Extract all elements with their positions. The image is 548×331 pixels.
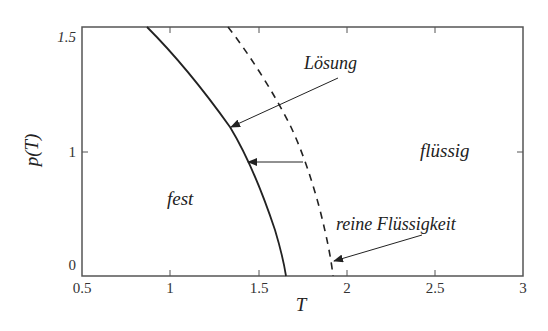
solution-curve <box>147 27 286 276</box>
y-tick-label: 1.5 <box>57 29 76 45</box>
region-fluessig-label: flüssig <box>420 140 470 161</box>
loesung-label: Lösung <box>303 53 357 73</box>
x-tick-label: 0.5 <box>73 280 92 296</box>
loesung-arrow <box>231 78 338 127</box>
x-axis-label: T <box>296 294 308 315</box>
phase-diagram-chart: 0.5 1 1.5 2 2.5 3 1.5 1 0 T p(T) Lösung … <box>0 0 548 331</box>
y-axis-label: p(T) <box>21 134 43 169</box>
x-ticks <box>170 27 435 276</box>
x-tick-label: 2 <box>343 280 351 296</box>
reine-fluessigkeit-label: reine Flüssigkeit <box>336 214 457 234</box>
x-tick-label: 2.5 <box>426 280 445 296</box>
x-tick-label: 3 <box>519 280 527 296</box>
x-tick-label: 1 <box>166 280 174 296</box>
y-tick-label: 0 <box>69 257 77 273</box>
region-fest-label: fest <box>167 188 194 209</box>
reine-arrow <box>334 235 422 261</box>
y-tick-label: 1 <box>69 144 77 160</box>
x-tick-label: 1.5 <box>250 280 269 296</box>
